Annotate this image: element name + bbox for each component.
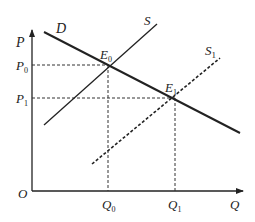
supply-curve [44, 24, 157, 125]
p0-label: P0 [15, 58, 28, 75]
supply-shifted-label: S1 [205, 43, 216, 60]
supply-demand-diagram: P Q O D S S1 E0 E1 P0 P1 Q0 Q1 [0, 0, 255, 222]
p1-label: P1 [15, 91, 28, 108]
supply-shifted-curve [92, 58, 220, 164]
supply-label: S [144, 13, 151, 28]
q0-label: Q0 [102, 197, 115, 214]
origin-label: O [18, 186, 28, 201]
e0-label: E0 [99, 47, 112, 64]
e1-label: E1 [164, 80, 177, 97]
x-axis-label: Q [230, 197, 240, 212]
y-axis-label: P [15, 35, 25, 50]
q1-label: Q1 [168, 197, 181, 214]
demand-label: D [55, 21, 66, 36]
